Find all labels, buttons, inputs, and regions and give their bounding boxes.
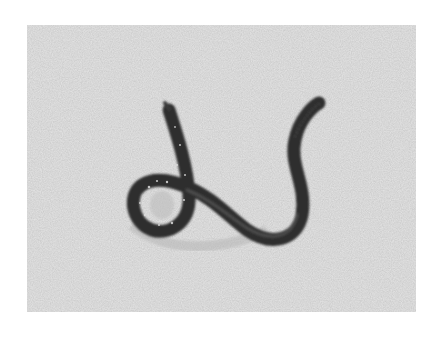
worm-illustration — [27, 25, 416, 312]
sand-photo — [27, 25, 416, 312]
